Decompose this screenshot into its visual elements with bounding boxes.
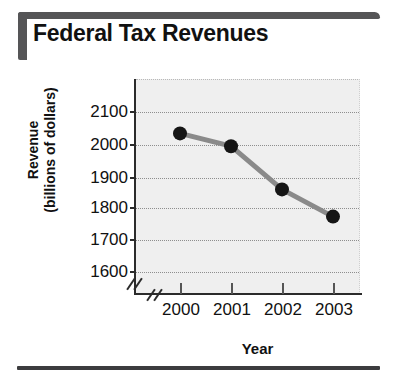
y-tick-label-2100: 2100 [68,103,128,120]
footer-divider [17,366,380,370]
gridline-1600 [136,272,359,273]
y-tick-label-1600: 1600 [68,263,128,280]
y-axis-title-line-2: (billions of dollars) [42,70,59,230]
chart-figure: Federal Tax Revenues Revenue (billions o… [0,0,397,378]
gridline-1900 [136,178,359,179]
gridline-1800 [136,208,359,209]
y-tick-mark-1900 [130,177,136,179]
x-tick-mark-2003 [333,283,335,294]
gridline-2000 [136,145,359,146]
y-axis-tick-labels: 2100 2000 1900 1800 1700 1600 [62,0,128,378]
y-tick-mark-1600 [130,271,136,273]
x-tick-mark-2000 [180,283,182,294]
x-axis-title: Year [150,340,365,357]
y-tick-label-1900: 1900 [68,169,128,186]
y-tick-mark-2100 [130,111,136,113]
y-tick-label-1800: 1800 [68,199,128,216]
x-tick-mark-2002 [282,283,284,294]
x-axis-line [134,293,362,295]
title-bracket-left-bar [18,12,27,60]
y-axis-title: Revenue (billions of dollars) [25,70,59,230]
y-tick-mark-2000 [130,144,136,146]
plot-area [136,79,360,294]
y-tick-label-1700: 1700 [68,231,128,248]
y-tick-label-2000: 2000 [68,136,128,153]
gridline-2100 [136,112,359,113]
x-tick-label-2003: 2003 [304,300,364,320]
x-tick-mark-2001 [231,283,233,294]
y-tick-mark-1700 [130,239,136,241]
y-axis-title-line-1: Revenue [25,70,42,230]
y-tick-mark-1800 [130,207,136,209]
gridline-1700 [136,240,359,241]
